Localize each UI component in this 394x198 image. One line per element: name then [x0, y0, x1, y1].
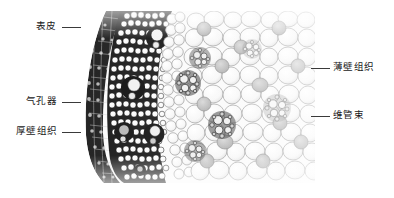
leader-line-sclerenchyma: [62, 132, 81, 133]
label-sclerenchyma: 厚壁组织: [16, 126, 58, 137]
micrograph-image: [80, 11, 315, 183]
label-epidermis: 表皮: [36, 21, 57, 32]
label-vascular-bundle: 维管束: [333, 110, 364, 121]
leader-line-parenchyma: [311, 68, 330, 69]
label-parenchyma: 薄壁组织: [333, 62, 375, 73]
leader-line-stomata: [62, 102, 81, 103]
leader-line-vascular-bundle: [311, 116, 330, 117]
figure-plant-stem-cross-section: 表皮 气孔器 厚壁组织 薄壁组织 维管束: [0, 0, 394, 198]
label-stomata: 气孔器: [26, 96, 57, 107]
leader-line-epidermis: [62, 27, 81, 28]
micrograph-svg: [80, 11, 315, 183]
